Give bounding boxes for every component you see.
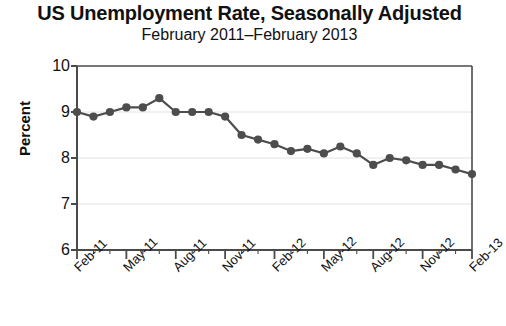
data-point-marker: [468, 170, 476, 178]
y-axis-tick-label: 10: [52, 57, 70, 75]
data-point-marker: [155, 94, 163, 102]
data-point-marker: [89, 113, 97, 121]
y-axis-tick-label: 9: [61, 103, 70, 121]
data-point-marker: [419, 161, 427, 169]
data-point-marker: [303, 145, 311, 153]
data-point-marker: [122, 103, 130, 111]
data-point-marker: [270, 140, 278, 148]
data-point-marker: [73, 108, 81, 116]
data-point-marker: [106, 108, 114, 116]
data-point-marker: [320, 149, 328, 157]
y-axis-tick-label: 6: [61, 241, 70, 259]
data-point-marker: [237, 131, 245, 139]
data-point-marker: [353, 149, 361, 157]
data-point-marker: [172, 108, 180, 116]
data-point-marker: [451, 165, 459, 173]
data-point-marker: [139, 103, 147, 111]
data-point-marker: [386, 154, 394, 162]
data-point-marker: [435, 161, 443, 169]
data-point-marker: [287, 147, 295, 155]
data-point-marker: [369, 161, 377, 169]
data-point-marker: [221, 113, 229, 121]
series-line: [77, 98, 472, 174]
data-point-marker: [254, 136, 262, 144]
y-axis-tick-label: 7: [61, 195, 70, 213]
data-point-marker: [336, 142, 344, 150]
data-point-marker: [402, 156, 410, 164]
y-axis-tick-label: 8: [61, 149, 70, 167]
data-point-marker: [188, 108, 196, 116]
data-point-marker: [205, 108, 213, 116]
